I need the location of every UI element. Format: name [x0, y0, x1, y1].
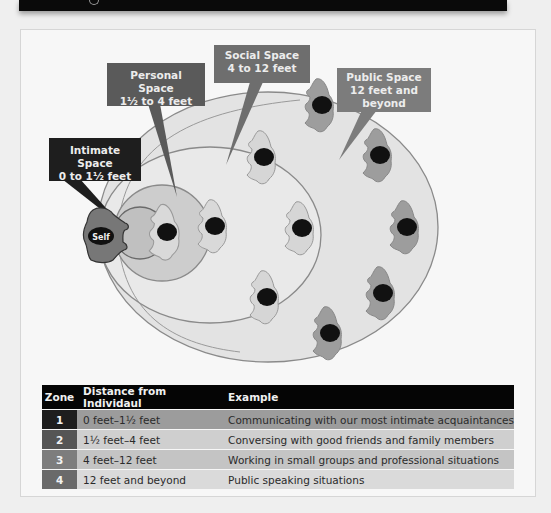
zone-distance: 0 feet–1½ feet [77, 410, 222, 430]
table-row: 3 4 feet–12 feet Working in small groups… [42, 450, 514, 470]
header-example: Example [222, 385, 514, 410]
person-public-1 [305, 79, 333, 132]
table-row: 1 0 feet–1½ feet Communicating with our … [42, 410, 514, 430]
zone-number: 3 [42, 450, 77, 470]
zone-example: Public speaking situations [222, 470, 514, 490]
table-header-row: Zone Distance from Individaul Example [42, 385, 514, 410]
self-label: Self [92, 233, 110, 242]
public-space-callout: Public Space 12 feet and beyond [337, 68, 431, 112]
social-space-callout: Social Space 4 to 12 feet [214, 45, 310, 83]
zone-example: Conversing with good friends and family … [222, 430, 514, 450]
table-row: 4 12 feet and beyond Public speaking sit… [42, 470, 514, 490]
personal-space-callout: Personal Space 1½ to 4 feet [107, 63, 205, 106]
public-space-title: Public Space [341, 71, 427, 84]
zone-distance: 1½ feet–4 feet [77, 430, 222, 450]
zones-table: Zone Distance from Individaul Example 1 … [42, 385, 514, 489]
zone-distance: 4 feet–12 feet [77, 450, 222, 470]
zone-example: Working in small groups and professional… [222, 450, 514, 470]
intimate-space-range: 0 to 1½ feet [53, 170, 137, 183]
public-space-range: 12 feet and [341, 84, 427, 97]
social-space-range: 4 to 12 feet [218, 62, 306, 75]
intimate-space-callout: Intimate Space 0 to 1½ feet [49, 138, 141, 181]
zone-distance: 12 feet and beyond [77, 470, 222, 490]
intimate-space-title: Intimate Space [53, 144, 137, 170]
zone-example: Communicating with our most intimate acq… [222, 410, 514, 430]
header-distance: Distance from Individaul [77, 385, 222, 410]
public-space-range-cont: beyond [341, 97, 427, 110]
social-space-title: Social Space [218, 49, 306, 62]
header-zone: Zone [42, 385, 77, 410]
zone-number: 1 [42, 410, 77, 430]
table-row: 2 1½ feet–4 feet Conversing with good fr… [42, 430, 514, 450]
personal-space-title: Personal Space [111, 69, 201, 95]
zone-number: 2 [42, 430, 77, 450]
personal-space-range: 1½ to 4 feet [111, 95, 201, 108]
zone-number: 4 [42, 470, 77, 490]
